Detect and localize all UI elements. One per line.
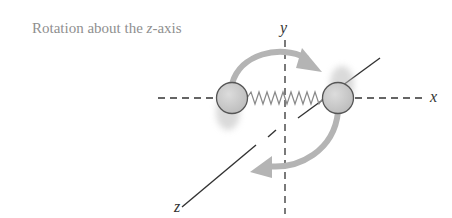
z-axis-label: z [174, 198, 180, 216]
left-atom [217, 83, 248, 114]
rotation-arrow-top [232, 52, 306, 84]
caption-prefix: Rotation about the [32, 20, 147, 36]
z-axis-line-mid [268, 130, 276, 137]
y-axis-label: y [280, 19, 287, 37]
caption-suffix: -axis [152, 20, 181, 36]
rotation-arrow-bottom [266, 112, 338, 167]
right-atom [323, 83, 354, 114]
caption: Rotation about the z-axis [32, 20, 182, 37]
z-axis-line-lower [182, 145, 256, 207]
rotation-arrowhead-bottom-icon [250, 156, 272, 178]
rotation-arrowhead-top-icon [296, 48, 322, 72]
diagram: Rotation about the z-axis y x z [0, 0, 452, 218]
x-axis-label: x [430, 88, 437, 106]
